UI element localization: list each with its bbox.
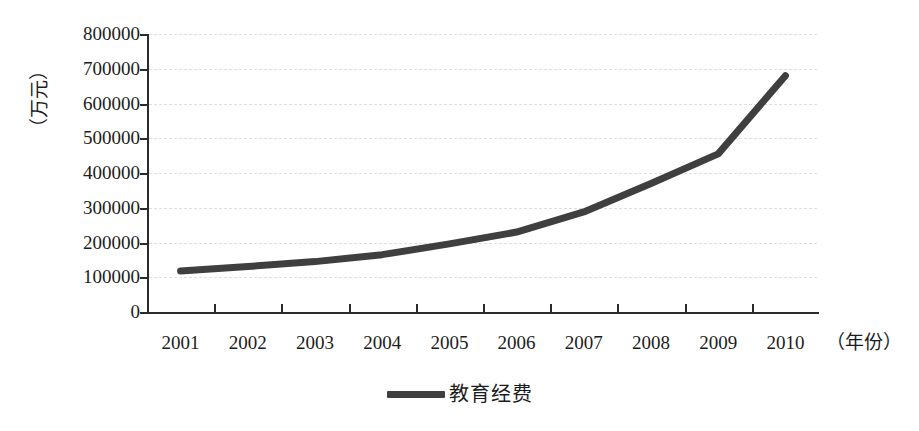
y-axis-tick-label: 400000 xyxy=(52,163,140,182)
legend-item-education-funding: 教育经费 xyxy=(387,382,533,406)
y-axis-tick-label: 300000 xyxy=(52,198,140,217)
legend-item-label: 教育经费 xyxy=(449,382,533,406)
y-axis-tick-label: 600000 xyxy=(52,94,140,113)
legend-line-swatch xyxy=(387,391,445,398)
y-axis-tick-label: 700000 xyxy=(52,59,140,78)
chart-legend: 教育经费 xyxy=(0,379,919,409)
y-axis-tick-label: 500000 xyxy=(52,128,140,147)
data-series-layer xyxy=(147,34,819,314)
x-axis-title: （年份） xyxy=(826,332,902,354)
x-axis-tick-label: 2010 xyxy=(740,332,830,354)
education-funding-line-chart: （万元） 01000002000003000004000005000006000… xyxy=(0,0,919,431)
plot-area xyxy=(147,34,819,314)
series-line-education-funding xyxy=(181,76,786,271)
x-axis-tick-labels: 2001200220032004200520062007200820092010 xyxy=(147,332,819,362)
y-axis-tick-label: 200000 xyxy=(52,233,140,252)
y-axis-tick-labels: 0100000200000300000400000500000600000700… xyxy=(52,0,140,431)
y-axis-tick-label: 800000 xyxy=(52,24,140,43)
y-axis-tick-label: 100000 xyxy=(52,267,140,286)
y-axis-tick-label: 0 xyxy=(52,302,140,321)
